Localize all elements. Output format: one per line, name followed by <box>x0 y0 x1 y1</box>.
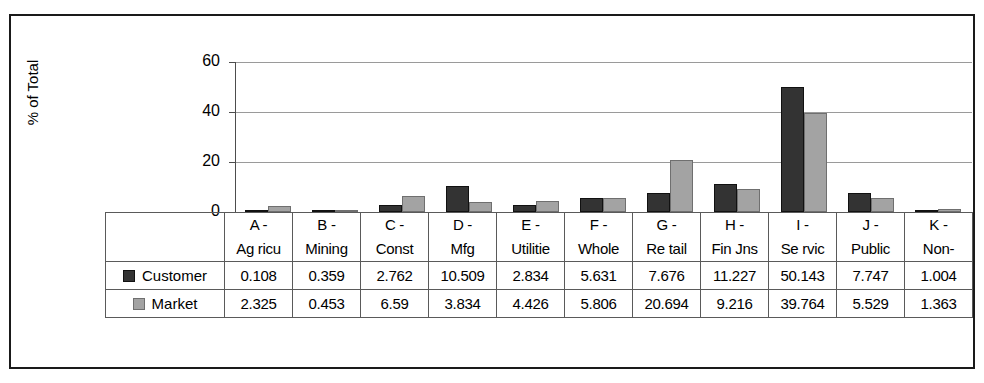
table-header-line: Whole <box>565 237 632 261</box>
legend-label-customer: Customer <box>142 267 207 284</box>
table-corner-cell <box>106 213 225 262</box>
table-cell-value: 5.631 <box>565 262 633 290</box>
table-header-line: Fin Jns <box>701 237 768 261</box>
y-tick-label-60: 60 <box>160 53 220 69</box>
table-row: Customer 0.1080.3592.76210.5092.8345.631… <box>106 262 973 290</box>
bar-market <box>670 160 693 212</box>
table-header-line: I - <box>769 213 836 237</box>
bar-group <box>704 62 771 212</box>
bar-customer <box>580 198 603 212</box>
table-header-line: Se rvic <box>769 237 836 261</box>
bar-market <box>871 198 894 212</box>
table-header-line: Public <box>837 237 904 261</box>
bar-market <box>603 198 626 213</box>
table-header-line: A - <box>225 213 292 237</box>
bar-group <box>235 62 302 212</box>
legend-item-customer: Customer <box>106 262 225 290</box>
table-header-line: F - <box>565 213 632 237</box>
legend-label-market: Market <box>152 295 198 312</box>
legend-swatch-customer-icon <box>123 270 135 282</box>
table-cell-value: 5.529 <box>837 290 905 318</box>
bar-group <box>369 62 436 212</box>
table-cell-value: 50.143 <box>769 262 837 290</box>
table-cell-value: 11.227 <box>701 262 769 290</box>
table-header-line: Mining <box>293 237 360 261</box>
table-cell-value: 4.426 <box>497 290 565 318</box>
bar-market <box>536 201 559 212</box>
table-cell-value: 6.59 <box>361 290 429 318</box>
bar-group <box>905 62 972 212</box>
plot-area: 0204060 <box>223 48 972 212</box>
table-header-line: J - <box>837 213 904 237</box>
table-cell-value: 1.004 <box>905 262 973 290</box>
plot-inner: 0204060 <box>235 62 972 212</box>
table-cell-value: 3.834 <box>429 290 497 318</box>
table-header-line: K - <box>905 213 972 237</box>
table-header-line: Utilitie <box>497 237 564 261</box>
y-axis-title: % of Total <box>24 33 41 153</box>
table-cell-value: 2.762 <box>361 262 429 290</box>
table-header-cell: I -Se rvic <box>769 213 837 262</box>
table-cell-value: 0.359 <box>293 262 361 290</box>
table-header-cell: H -Fin Jns <box>701 213 769 262</box>
table-cell-value: 39.764 <box>769 290 837 318</box>
table-cell-value: 7.676 <box>633 262 701 290</box>
bar-group <box>436 62 503 212</box>
table-header-cell: C -Const <box>361 213 429 262</box>
table-header-cell: K -Non- <box>905 213 973 262</box>
table-header-line: E - <box>497 213 564 237</box>
bar-customer <box>379 205 402 212</box>
table-header-cell: A -Ag ricu <box>225 213 293 262</box>
table-header-cell: G -Re tail <box>633 213 701 262</box>
bar-customer <box>513 205 536 212</box>
table-cell-value: 9.216 <box>701 290 769 318</box>
bar-customer <box>446 186 469 212</box>
table-row: Market 2.3250.4536.593.8344.4265.80620.6… <box>106 290 973 318</box>
table-header-line: D - <box>429 213 496 237</box>
table-header-line: Ag ricu <box>225 237 292 261</box>
table-header-line: B - <box>293 213 360 237</box>
table-cell-value: 5.806 <box>565 290 633 318</box>
bar-group <box>637 62 704 212</box>
table-cell-value: 0.453 <box>293 290 361 318</box>
table-header-line: Mfg <box>429 237 496 261</box>
table-header-line: H - <box>701 213 768 237</box>
bar-group <box>503 62 570 212</box>
y-tick-label-20: 20 <box>160 153 220 169</box>
table-header-cell: E -Utilitie <box>497 213 565 262</box>
table-cell-value: 1.363 <box>905 290 973 318</box>
bar-market <box>737 189 760 212</box>
bar-group <box>771 62 838 212</box>
data-table: A -Ag ricuB -MiningC -ConstD -MfgE -Util… <box>105 212 973 318</box>
legend-swatch-market-icon <box>133 298 145 310</box>
bar-market <box>804 113 827 212</box>
table-header-line: Const <box>361 237 428 261</box>
table-cell-value: 7.747 <box>837 262 905 290</box>
table-header-cell: J -Public <box>837 213 905 262</box>
table-header-line: Re tail <box>633 237 700 261</box>
table-header-line: Non- <box>905 237 972 261</box>
table-row-categories: A -Ag ricuB -MiningC -ConstD -MfgE -Util… <box>106 213 973 262</box>
chart-frame: % of Total 0204060 A -Ag ricuB -MiningC … <box>9 14 975 369</box>
table-header-line: G - <box>633 213 700 237</box>
table-cell-value: 20.694 <box>633 290 701 318</box>
table-cell-value: 10.509 <box>429 262 497 290</box>
bar-group <box>302 62 369 212</box>
bar-market <box>469 202 492 212</box>
bar-customer <box>848 193 871 212</box>
y-tick-label-40: 40 <box>160 103 220 119</box>
table-cell-value: 0.108 <box>225 262 293 290</box>
table-header-cell: D -Mfg <box>429 213 497 262</box>
table-cell-value: 2.325 <box>225 290 293 318</box>
bar-group <box>838 62 905 212</box>
bar-market <box>402 196 425 212</box>
bar-group <box>570 62 637 212</box>
bar-customer <box>714 184 737 212</box>
legend-item-market: Market <box>106 290 225 318</box>
bar-customer <box>781 87 804 212</box>
bar-customer <box>647 193 670 212</box>
table-header-line: C - <box>361 213 428 237</box>
table-header-cell: B -Mining <box>293 213 361 262</box>
table-cell-value: 2.834 <box>497 262 565 290</box>
table-header-cell: F -Whole <box>565 213 633 262</box>
